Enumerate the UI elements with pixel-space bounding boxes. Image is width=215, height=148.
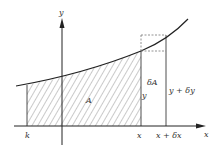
y-axis-label: y [58,8,64,17]
tick-x-plus-dx-label: x + δx [156,131,182,140]
ordinate-y-label: y [141,91,147,100]
area-increment-diagram: y x A δA y y + δy k x x + δx [0,0,215,148]
dashed-increment-box [141,35,166,51]
x-axis-arrow-icon [196,124,206,129]
x-axis-label: x [204,130,209,139]
y-axis-arrow-icon [60,18,65,28]
increment-area-label: δA [147,78,158,87]
tick-k-label: k [25,131,30,140]
hatched-area-A [27,40,141,126]
area-label: A [85,96,92,105]
tick-x-label: x [137,131,142,140]
ordinate-y-plus-dy-label: y + δy [168,86,195,95]
